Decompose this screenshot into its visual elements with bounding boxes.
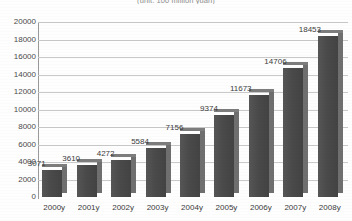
bar-top-face — [214, 109, 239, 112]
bar-front-face — [111, 160, 131, 197]
x-axis-category-label: 2006y — [244, 203, 278, 212]
bar-top-face — [180, 128, 205, 131]
bar-front-face — [249, 95, 269, 197]
bar-front-face — [283, 68, 303, 197]
bar-front-face — [318, 36, 338, 197]
y-axis-tick-label: 14000 — [2, 71, 36, 79]
y-axis-tick-label: 8000 — [2, 123, 36, 131]
bar-front-face — [42, 170, 62, 197]
bar-side-face — [200, 130, 205, 193]
x-axis-category-label: 2007y — [278, 203, 312, 212]
x-axis-category-label: 2005y — [209, 203, 243, 212]
gridline — [38, 57, 348, 58]
y-axis-tick-label: 10000 — [2, 106, 36, 114]
bar-front-face — [77, 165, 97, 197]
bar-top-face — [283, 62, 308, 65]
bar-side-face — [62, 166, 67, 193]
bar — [249, 91, 269, 197]
bar-side-face — [269, 91, 274, 193]
bar-value-label: 4272 — [97, 150, 115, 158]
bar — [111, 156, 131, 197]
bar-value-label: 5584 — [131, 138, 149, 146]
y-axis-tick-label: 20000 — [2, 18, 36, 26]
y-axis-tick-label: 2000 — [2, 176, 36, 184]
bar-side-face — [338, 32, 343, 193]
bar-side-face — [97, 161, 102, 193]
bar-top-face — [318, 30, 343, 33]
bar — [180, 130, 200, 197]
bar-top-face — [249, 89, 274, 92]
bar-chart: (unit: 100 million yuan) 020004000600080… — [0, 0, 352, 221]
bar — [42, 166, 62, 197]
y-axis-tick-label: 6000 — [2, 141, 36, 149]
bar-side-face — [131, 156, 136, 193]
bar-value-label: 3610 — [62, 155, 80, 163]
bar-value-label: 18453 — [299, 26, 321, 34]
bar — [146, 144, 166, 197]
y-axis: 0200040006000800010000120001400016000180… — [0, 22, 36, 197]
bar-side-face — [303, 64, 308, 193]
bar — [283, 64, 303, 197]
y-axis-tick-label: 12000 — [2, 88, 36, 96]
bar-value-label: 7156 — [166, 124, 184, 132]
bar — [214, 111, 234, 197]
gridline — [38, 22, 348, 23]
x-axis-category-label: 2008y — [313, 203, 347, 212]
bar-front-face — [146, 148, 166, 197]
bar-front-face — [180, 134, 200, 197]
x-axis-category-label: 2004y — [175, 203, 209, 212]
x-axis-category-label: 2001y — [71, 203, 105, 212]
x-axis-category-label: 2003y — [140, 203, 174, 212]
bar-top-face — [77, 159, 102, 162]
bar-side-face — [234, 111, 239, 193]
bar-side-face — [166, 144, 171, 193]
plot-area: 307136104272558471569374116731470618453 — [38, 22, 348, 197]
chart-title: (unit: 100 million yuan) — [0, 0, 352, 4]
bar-value-label: 3071 — [28, 160, 46, 168]
bar-value-label: 11673 — [230, 85, 252, 93]
bar — [318, 32, 338, 197]
gridline — [38, 40, 348, 41]
bar-front-face — [214, 115, 234, 197]
y-axis-tick-label: 18000 — [2, 36, 36, 44]
bar-value-label: 14706 — [264, 58, 286, 66]
bar — [77, 161, 97, 197]
y-axis-tick-label: 0 — [2, 193, 36, 201]
x-axis-category-label: 2000y — [37, 203, 71, 212]
x-axis-category-label: 2002y — [106, 203, 140, 212]
y-axis-tick-label: 16000 — [2, 53, 36, 61]
bar-top-face — [146, 142, 171, 145]
bar-value-label: 9374 — [200, 105, 218, 113]
